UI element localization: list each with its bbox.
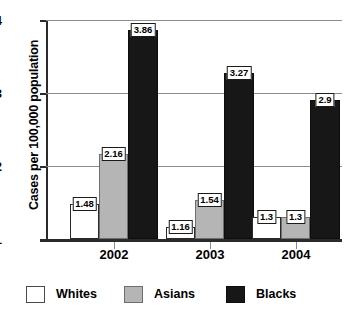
bar-2004-whites[interactable]: 1.3 [252,217,281,239]
y-tick-label-4: 4 [0,13,2,28]
y-axis-title: Cases per 100,000 population [27,15,41,235]
legend-label-asians: Asians [154,287,195,301]
bar-chart: Cases per 100,000 population 4 3 2 1 1.4… [0,0,355,320]
y-tick-label-1: 1 [0,232,2,247]
bar-label-2004-blacks: 2.9 [315,93,334,107]
chart-legend: Whites Asians Blacks [26,281,336,307]
bar-2003-blacks[interactable]: 3.27 [224,73,254,239]
y-tick-mark-3 [40,93,46,95]
y-tick-mark-4 [40,20,46,22]
y-tick-label-2: 2 [0,159,2,174]
x-axis-label-2004: 2004 [256,247,336,262]
bar-group-2004: 1.3 1.3 2.9 [252,20,340,239]
y-tick-label-3: 3 [0,86,2,101]
bar-2003-asians[interactable]: 1.54 [195,200,224,239]
legend-entry-whites[interactable]: Whites [26,286,97,303]
bar-label-2002-blacks: 3.86 [131,23,156,37]
legend-swatch-asians-icon [124,286,143,303]
bar-2004-blacks[interactable]: 2.9 [310,100,340,239]
bar-2003-whites[interactable]: 1.16 [166,227,195,239]
bar-2002-asians[interactable]: 2.16 [99,154,128,239]
legend-label-blacks: Blacks [256,287,296,301]
bar-label-2003-asians: 1.54 [197,193,222,207]
bar-2004-asians[interactable]: 1.3 [281,217,310,239]
bar-label-2004-whites: 1.3 [257,210,276,224]
legend-label-whites: Whites [56,287,97,301]
legend-entry-asians[interactable]: Asians [124,286,195,303]
y-tick-mark-2 [40,166,46,168]
legend-swatch-whites-icon [26,286,45,303]
bar-label-2002-whites: 1.48 [72,197,97,211]
plot-area: 1.48 2.16 3.86 1.16 1.54 3.27 1.3 [46,20,342,239]
bar-group-2002: 1.48 2.16 3.86 [70,20,158,239]
bar-label-2003-whites: 1.16 [168,220,193,234]
legend-entry-blacks[interactable]: Blacks [226,286,296,303]
y-axis-line [46,20,48,240]
bar-group-2003: 1.16 1.54 3.27 [166,20,254,239]
x-axis-label-2003: 2003 [170,247,250,262]
bar-2002-blacks[interactable]: 3.86 [128,30,158,239]
x-axis-label-2002: 2002 [74,247,154,262]
bar-label-2004-asians: 1.3 [286,210,305,224]
bar-2002-whites[interactable]: 1.48 [70,204,99,239]
bar-label-2003-blacks: 3.27 [227,66,252,80]
legend-swatch-blacks-icon [226,286,245,303]
bar-label-2002-asians: 2.16 [101,147,126,161]
